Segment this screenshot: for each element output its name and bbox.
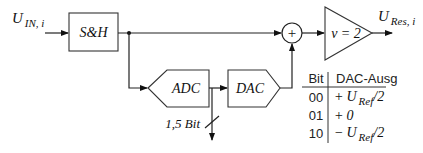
adc-feed-line (129, 33, 147, 88)
bus-width-label: 1,5 Bit (165, 116, 200, 131)
sample-hold-block: S&H (69, 13, 118, 51)
dac-output-table: Bit DAC-Ausg 00 +URef/2 01 +0 10 −URef/2 (302, 71, 397, 143)
table-row-value: −URef/2 (334, 125, 384, 143)
input-label: UIN, i (12, 10, 44, 29)
table-row-value: +URef/2 (334, 89, 384, 107)
pipeline-stage-diagram: UIN, i S&H ADC 1,5 Bit DAC + v = 2 (0, 0, 423, 153)
table-row-bit: 10 (309, 126, 323, 141)
table-header-bit: Bit (308, 71, 324, 86)
gain-label: v = 2 (331, 26, 361, 41)
table-row-bit: 00 (309, 90, 323, 105)
table-row-value: +0 (334, 108, 353, 123)
table-row-bit: 01 (309, 108, 323, 123)
adc-block: ADC (148, 70, 209, 107)
dac-block: DAC (228, 70, 280, 107)
amplifier-block: v = 2 (325, 7, 372, 60)
sample-hold-label: S&H (80, 25, 109, 40)
plus-sign: + (288, 25, 296, 41)
output-label: URes, i (378, 8, 415, 27)
dac-label: DAC (235, 81, 265, 96)
table-header-dac: DAC-Ausg (336, 71, 397, 86)
dac-summer-line (280, 44, 292, 88)
adc-label: ADC (171, 81, 201, 96)
summing-junction: + (282, 23, 302, 43)
